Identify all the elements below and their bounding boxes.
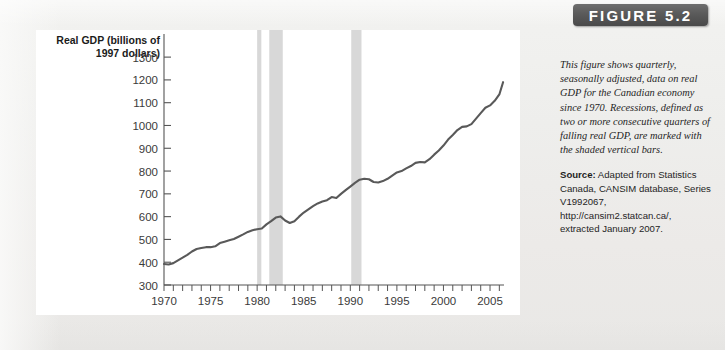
y-axis-tick-label: 600 — [139, 211, 158, 223]
y-axis-tick-label: 700 — [139, 188, 158, 200]
figure-number-label: FIGURE 5.2 — [589, 7, 693, 24]
figure-source: Source: Adapted from Statistics Canada, … — [560, 168, 712, 235]
gdp-line-chart: 3004005006007008009001000110012001300197… — [36, 30, 520, 315]
x-axis-tick-label: 2005 — [477, 295, 503, 307]
figure-number-badge: FIGURE 5.2 — [573, 4, 708, 26]
recession-band — [269, 30, 283, 285]
y-axis-tick-label: 1300 — [132, 52, 158, 64]
y-axis-tick-label: 1000 — [132, 120, 158, 132]
recession-band — [257, 30, 261, 285]
x-axis-tick-label: 1990 — [338, 295, 364, 307]
x-axis-tick-label: 1975 — [198, 295, 224, 307]
x-axis-tick-label: 1970 — [151, 295, 177, 307]
x-axis-tick-label: 1985 — [291, 295, 317, 307]
chart-container: Real GDP (billions of 1997 dollars) 3004… — [36, 30, 520, 315]
y-axis-tick-label: 900 — [139, 143, 158, 155]
x-axis-tick-label: 1980 — [244, 295, 270, 307]
recession-band — [351, 30, 361, 285]
figure-page: FIGURE 5.2 Real GDP (billions of 1997 do… — [0, 0, 725, 350]
y-axis-tick-label: 1200 — [132, 74, 158, 86]
x-axis-labels-group: 19701975198019851990199520002005 — [151, 295, 503, 307]
figure-caption: This figure shows quarterly, seasonally … — [560, 58, 712, 157]
y-axis-tick-label: 1100 — [133, 97, 158, 109]
y-axis-tick-label: 500 — [139, 234, 158, 246]
x-axis-tick-label: 2000 — [431, 295, 457, 307]
y-axis-tick-label: 800 — [139, 166, 158, 178]
source-label: Source: — [560, 169, 596, 180]
y-axis-tick-label: 300 — [139, 280, 158, 292]
plot-background — [162, 30, 508, 287]
y-axis-tick-label: 400 — [139, 257, 158, 269]
side-text-column: This figure shows quarterly, seasonally … — [560, 58, 712, 235]
x-axis-tick-label: 1995 — [384, 295, 410, 307]
